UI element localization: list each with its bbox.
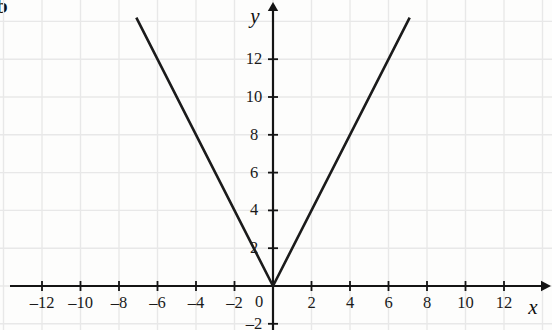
x-tick-label: 10: [457, 293, 474, 313]
x-axis-label: x: [528, 295, 537, 320]
x-tick-label: –8: [111, 293, 128, 313]
y-tick-label: 10: [246, 87, 263, 107]
y-tick-label: 4: [250, 200, 258, 220]
x-tick-label: 2: [307, 293, 315, 313]
x-tick-label: 4: [346, 293, 354, 313]
y-tick-label: –2: [246, 314, 263, 330]
y-axis-label: y: [250, 4, 259, 29]
x-axis-arrowhead: [541, 281, 551, 291]
origin-label: 0: [255, 292, 263, 312]
figure-canvas: b –12–10–8–6–4–2024681012–224681012xy: [0, 0, 552, 330]
x-tick-label: –2: [226, 293, 243, 313]
x-tick-label: –4: [188, 293, 205, 313]
x-tick-label: 12: [496, 293, 513, 313]
y-tick-label: 8: [250, 125, 258, 145]
y-tick-label: 6: [250, 163, 258, 183]
y-axis-arrowhead: [268, 2, 278, 11]
y-tick-label: 2: [250, 238, 258, 258]
y-tick-label: 12: [246, 49, 263, 69]
x-tick-label: 8: [423, 293, 431, 313]
x-tick-label: –12: [30, 293, 55, 313]
axis-lines: [10, 2, 551, 330]
x-tick-label: –10: [68, 293, 93, 313]
x-tick-label: 6: [384, 293, 392, 313]
coordinate-plot: [0, 0, 552, 330]
x-tick-label: –6: [149, 293, 166, 313]
